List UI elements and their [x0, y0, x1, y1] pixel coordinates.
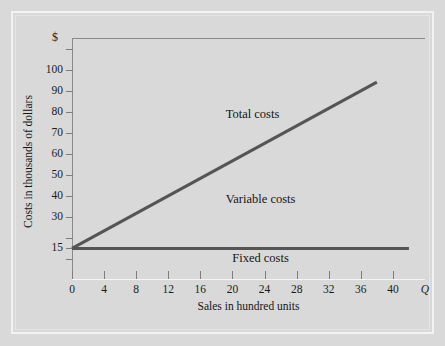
y-axis-unit-symbol: $: [52, 31, 58, 43]
annotation-fixed-costs: Fixed costs: [232, 252, 289, 265]
y-axis-tick-label: 100: [46, 64, 63, 76]
y-axis-tick-label: 80: [52, 106, 64, 118]
y-axis-tick-label: 30: [52, 211, 64, 223]
y-axis-tick-label: 70: [52, 127, 64, 139]
x-axis-tick-label: 20: [227, 284, 239, 296]
x-axis-end-symbol: Q: [421, 284, 429, 296]
x-axis-tick-label: 12: [163, 284, 175, 296]
y-axis-tick-label: 60: [52, 148, 64, 160]
y-axis-title: Costs in thousands of dollars: [22, 62, 36, 262]
series-lines: [72, 38, 425, 280]
y-axis-tick-label: 50: [52, 169, 64, 181]
series-line-total-costs: [72, 82, 377, 248]
x-axis-tick-label: 8: [133, 284, 139, 296]
y-axis-tick-label: 40: [52, 190, 64, 202]
annotation-total-costs: Total costs: [226, 108, 280, 121]
y-axis-tick-label: 15: [52, 243, 64, 255]
x-axis-title: Sales in hundred units: [72, 300, 425, 312]
x-axis-tick-label: 24: [259, 284, 271, 296]
x-axis-tick-label: 0: [69, 284, 75, 296]
x-axis-tick-label: 28: [291, 284, 303, 296]
figure-container: $ Costs in thousands of dollars 10090807…: [0, 0, 445, 346]
annotation-variable-costs: Variable costs: [226, 193, 296, 206]
x-axis-tick-label: 36: [355, 284, 367, 296]
x-axis-tick-label: 4: [101, 284, 107, 296]
x-axis-tick-label: 32: [323, 284, 335, 296]
plot-area: 1009080706050403015 0481216202428323640Q…: [72, 38, 425, 280]
x-axis-tick-label: 16: [195, 284, 207, 296]
y-axis-tick-label: 90: [52, 85, 64, 97]
x-axis-tick-label: 40: [387, 284, 399, 296]
